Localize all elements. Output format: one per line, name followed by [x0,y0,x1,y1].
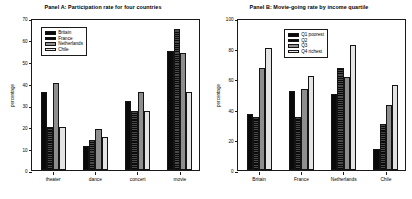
y-axis-tick-mark [29,41,32,42]
x-axis-tick-label: movie [155,177,205,182]
x-axis-tick-mark [53,172,54,175]
legend-item: Q4 richest [288,49,324,55]
legend: BritainFranceNetherlandsChile [41,27,87,56]
y-axis-tick-mark [29,107,32,108]
y-axis-tick-label: 50 [15,61,28,66]
bar [308,76,314,170]
y-axis-tick-label: 20 [15,126,28,131]
bar [144,111,150,170]
legend-swatch [45,31,56,34]
y-axis-tick-mark [29,85,32,86]
y-axis-tick-mark [235,111,238,112]
y-axis-tick-mark [29,172,32,173]
legend-swatch [288,44,299,47]
bar [186,92,192,170]
y-axis-tick-label: 40 [221,109,234,114]
x-axis-tick-label: Chile [361,177,411,182]
y-axis-tick-label: 20 [221,139,234,144]
y-axis-tick-mark [235,50,238,51]
x-axis-tick-mark [343,172,344,175]
y-axis-tick-label: 80 [221,48,234,53]
bar [59,127,65,170]
legend-swatch [45,37,56,40]
bar [265,48,271,170]
bar [392,85,398,170]
panel-b: Panel B: Movie-going rate by income quar… [206,0,412,199]
y-axis-tick-mark [235,80,238,81]
x-axis-tick-mark [137,172,138,175]
bar [350,45,356,170]
x-axis-tick-mark [180,172,181,175]
y-axis-tick-mark [29,63,32,64]
y-axis-label: percentage [216,84,221,107]
legend: Q1 poorestQ2Q3Q4 richest [284,29,328,58]
y-axis-tick-mark [29,128,32,129]
y-axis-label: percentage [10,84,15,107]
y-axis-tick-label: 30 [15,104,28,109]
y-axis-tick-label: 40 [15,83,28,88]
figure-two-panels: Panel A: Participation rate for four cou… [0,0,412,199]
y-axis-tick-mark [235,141,238,142]
y-axis-tick-label: 100 [221,17,234,22]
panel-b-title: Panel B: Movie-going rate by income quar… [206,4,412,10]
bar [102,137,108,170]
panel-a-plot-area: 010203040506070percentagetheaterdancecon… [31,19,200,171]
x-axis-tick-mark [95,172,96,175]
legend-swatch [45,48,56,51]
panel-b-plot-area: 020406080100percentageBritainFranceNethe… [237,19,406,171]
y-axis-tick-label: 0 [15,169,28,174]
panel-a-title: Panel A: Participation rate for four cou… [0,4,206,10]
legend-swatch [45,42,56,45]
legend-swatch [288,33,299,36]
y-axis-tick-mark [29,20,32,21]
x-axis-tick-mark [301,172,302,175]
x-axis-tick-mark [386,172,387,175]
y-axis-tick-label: 70 [15,17,28,22]
legend-swatch [288,39,299,42]
y-axis-tick-label: 0 [221,169,234,174]
y-axis-tick-label: 10 [15,148,28,153]
y-axis-tick-mark [235,20,238,21]
y-axis-tick-label: 60 [221,78,234,83]
y-axis-tick-mark [29,150,32,151]
legend-swatch [288,50,299,53]
legend-item: Chile [45,47,83,53]
legend-label: Q4 richest [301,49,322,55]
panel-a: Panel A: Participation rate for four cou… [0,0,206,199]
y-axis-tick-label: 60 [15,39,28,44]
x-axis-tick-mark [259,172,260,175]
legend-label: Chile [58,47,68,53]
y-axis-tick-mark [235,172,238,173]
